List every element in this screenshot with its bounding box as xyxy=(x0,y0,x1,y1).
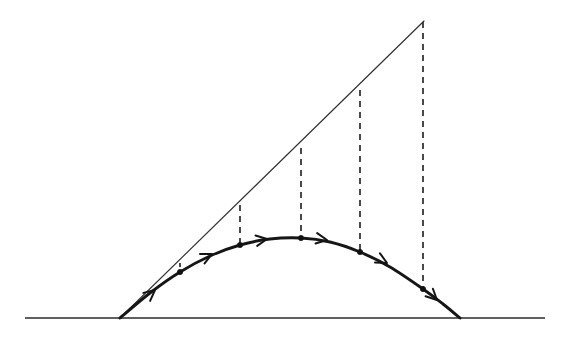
projectile-diagram-canvas xyxy=(0,0,571,341)
fall-segments-layer xyxy=(180,22,423,289)
inertial-line-layer xyxy=(120,21,424,318)
inertial-straight-line xyxy=(120,21,424,318)
trajectory-marker-marker-2 xyxy=(237,242,242,247)
trajectory-layer xyxy=(120,238,460,318)
trajectory-marker-marker-5 xyxy=(420,286,425,291)
trajectory-markers-layer xyxy=(177,235,425,291)
parabolic-trajectory xyxy=(120,238,460,318)
trajectory-marker-marker-1 xyxy=(177,269,182,274)
trajectory-marker-marker-4 xyxy=(357,249,362,254)
trajectory-marker-marker-3 xyxy=(298,235,303,240)
projectile-diagram-figure xyxy=(0,0,571,341)
